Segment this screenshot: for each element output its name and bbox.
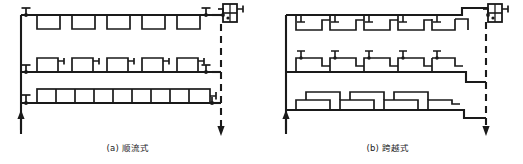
heating-system-schematic — [0, 0, 523, 164]
figure-background — [0, 0, 523, 164]
